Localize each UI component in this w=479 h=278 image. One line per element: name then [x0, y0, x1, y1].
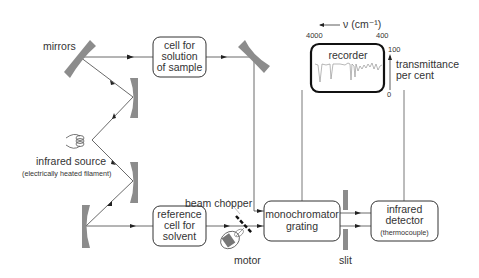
svg-text:0: 0: [387, 90, 391, 99]
motor-icon: [217, 228, 245, 253]
monochromator-box: monochromator grating: [264, 201, 340, 241]
svg-text:solvent: solvent: [163, 230, 196, 242]
reference-cell-box: reference cell for solvent: [153, 206, 206, 246]
svg-text:4000: 4000: [306, 31, 323, 40]
transmittance-axis: 100 0 transmittance per cent: [387, 45, 459, 99]
mirrors-label: mirrors: [43, 40, 76, 52]
svg-text:of sample: of sample: [157, 61, 203, 73]
mirror-upper-right: [130, 78, 138, 118]
svg-text:ν (cm⁻¹): ν (cm⁻¹): [343, 18, 381, 30]
slit-label: slit: [339, 254, 352, 266]
svg-text:grating: grating: [286, 220, 318, 232]
sample-cell-box: cell for solution of sample: [153, 37, 206, 77]
mirror-bottom-left: [82, 205, 90, 248]
infrared-source-sublabel: (electrically heated filament): [22, 169, 111, 178]
svg-text:recorder: recorder: [328, 49, 368, 61]
slit: [343, 190, 348, 250]
svg-text:(thermocouple): (thermocouple): [380, 228, 428, 237]
svg-text:monochromator: monochromator: [265, 208, 339, 220]
motor-label: motor: [234, 254, 261, 266]
svg-text:100: 100: [388, 45, 401, 54]
infrared-source-icon: [66, 134, 84, 148]
svg-text:per cent: per cent: [396, 69, 434, 81]
ir-spectrometer-diagram: cell for solution of sample reference ce…: [0, 0, 479, 278]
wavenumber-axis: ν (cm⁻¹) 4000 400: [306, 18, 389, 40]
beam-chopper-label: beam chopper: [185, 197, 253, 209]
detector-box: infrared detector (thermocouple): [371, 201, 438, 241]
svg-text:detector: detector: [386, 214, 424, 226]
svg-text:400: 400: [376, 31, 389, 40]
infrared-source-label: infrared source: [36, 155, 106, 167]
recorder: recorder: [311, 44, 384, 92]
